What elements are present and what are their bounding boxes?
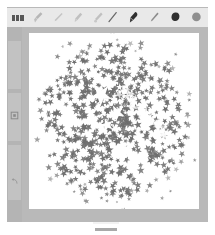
dark-marker-tool[interactable] xyxy=(128,11,139,24)
sidebar-panel-top xyxy=(8,41,21,89)
toolbar-left-group xyxy=(7,11,104,24)
pen-icon xyxy=(53,11,64,24)
light-pen-tool[interactable] xyxy=(149,11,160,24)
drawing-canvas[interactable] xyxy=(29,33,199,209)
sidebar xyxy=(7,27,22,222)
star-spray-splatter xyxy=(29,33,199,209)
brush-tool[interactable] xyxy=(33,11,44,24)
canvas-area xyxy=(22,27,208,222)
sidebar-panel-bottom xyxy=(8,145,21,200)
calligraphy-tool[interactable] xyxy=(93,11,104,24)
sidebar-item-undo[interactable] xyxy=(10,177,19,186)
sidebar-item-shape[interactable] xyxy=(10,111,19,120)
undo-arrow-icon xyxy=(10,177,19,186)
blob-icon xyxy=(170,11,181,24)
blob-brush-tool[interactable] xyxy=(170,11,181,24)
marker-tool[interactable] xyxy=(73,11,84,24)
toolbar-right-group xyxy=(107,11,208,24)
scroll-indicator[interactable] xyxy=(95,228,117,231)
brush-icon xyxy=(33,11,44,24)
calligraphy-icon xyxy=(93,11,104,24)
marker-icon xyxy=(73,11,84,24)
circle-icon xyxy=(191,11,202,24)
line-stroke-tool[interactable] xyxy=(107,11,118,24)
app-window xyxy=(7,7,208,222)
pen-tool[interactable] xyxy=(53,11,64,24)
shape-square-icon xyxy=(10,111,19,120)
pen-outline-icon xyxy=(149,11,160,24)
window-bottom-edge xyxy=(93,222,119,224)
toolbar xyxy=(7,8,208,27)
color-swatch[interactable] xyxy=(191,11,202,24)
diagonal-stroke-icon xyxy=(107,11,118,24)
marker-filled-icon xyxy=(128,11,139,24)
menu-logo-icon[interactable] xyxy=(12,15,24,21)
